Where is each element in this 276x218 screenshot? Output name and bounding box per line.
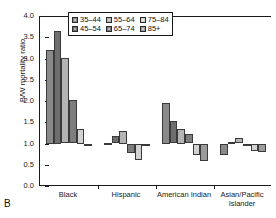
y-tick-label: 0.0 (12, 182, 34, 190)
legend-label: 65–74 (114, 25, 135, 33)
legend-swatch-icon (140, 26, 146, 32)
legend-label: 45–54 (80, 25, 101, 33)
bar (177, 129, 185, 144)
x-axis-separator-tick (98, 185, 99, 189)
bar (243, 144, 251, 146)
legend-label: 35–44 (80, 16, 101, 24)
bar (193, 144, 201, 155)
bar (162, 103, 170, 143)
legend-item: 75–84 (140, 16, 169, 24)
x-axis-separator-tick (214, 185, 215, 189)
y-tick-label: 3.0 (12, 55, 34, 63)
bar (251, 144, 259, 152)
y-tick-label: 4.0 (12, 12, 34, 20)
bar (200, 144, 208, 161)
x-category-label: Hispanic (97, 190, 155, 199)
legend-label: 75–84 (148, 16, 169, 24)
bar (69, 100, 77, 143)
x-category-label: American Indian (155, 190, 213, 199)
bar (185, 134, 193, 143)
bar (104, 143, 112, 145)
legend-label: 55–64 (114, 16, 135, 24)
figure-panel-b: B/W mortality ratio 0.00.51.01.52.02.53.… (0, 0, 276, 218)
legend-item: 65–74 (106, 25, 135, 33)
bar (46, 50, 54, 144)
legend-label: 85+ (148, 25, 161, 33)
x-category-label: Black (39, 190, 97, 199)
bar (235, 138, 243, 143)
x-axis-separator-tick (156, 185, 157, 189)
bar (119, 131, 127, 144)
legend-item: 45–54 (72, 25, 101, 33)
legend-swatch-icon (140, 17, 146, 23)
y-axis-tick-labels: 0.00.51.01.52.02.53.03.54.0 (10, 0, 34, 218)
y-tick-label: 0.5 (12, 161, 34, 169)
y-tick-label: 2.5 (12, 76, 34, 84)
bar (228, 142, 236, 144)
bar (112, 136, 120, 144)
legend-row: 45–5465–7485+ (72, 24, 169, 33)
bar (258, 144, 266, 153)
legend-swatch-icon (72, 17, 78, 23)
legend-row: 35–4455–6475–84 (72, 15, 169, 24)
plot-area (39, 16, 271, 186)
y-tick-mark (45, 186, 49, 187)
x-category-label: Asian/Pacific Islander (213, 190, 271, 208)
bar (61, 58, 69, 144)
bar (77, 129, 85, 144)
legend-swatch-icon (106, 26, 112, 32)
panel-letter: B (4, 198, 11, 209)
bar (142, 144, 150, 146)
legend: 35–4455–6475–8445–5465–7485+ (68, 12, 173, 36)
y-tick-label: 1.0 (12, 140, 34, 148)
legend-swatch-icon (106, 17, 112, 23)
legend-item: 85+ (140, 25, 161, 33)
y-tick-label: 1.5 (12, 118, 34, 126)
legend-item: 35–44 (72, 16, 101, 24)
bar (220, 144, 228, 155)
legend-swatch-icon (72, 26, 78, 32)
y-tick-label: 3.5 (12, 33, 34, 41)
bar (127, 144, 135, 153)
bar (54, 31, 62, 144)
y-tick-label: 2.0 (12, 97, 34, 105)
bar (84, 144, 92, 147)
legend-item: 55–64 (106, 16, 135, 24)
bar (135, 144, 143, 160)
bar (170, 121, 178, 143)
